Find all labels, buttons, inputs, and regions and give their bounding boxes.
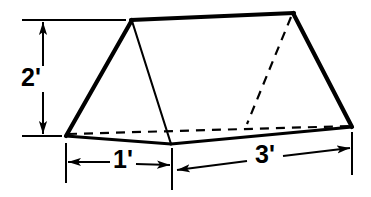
- prism-faces: [66, 13, 352, 144]
- prism-diagram-container: 2' 1' 3': [0, 0, 371, 197]
- dim-arrow-length-right: [283, 148, 350, 156]
- dimension-label-base: 1': [113, 145, 133, 173]
- dim-arrow-base-right: [136, 164, 170, 165]
- dim-arrow-length-left: [177, 161, 247, 170]
- dimension-label-length: 3': [255, 140, 275, 168]
- dimension-label-height: 2': [21, 63, 41, 91]
- dimension-base-1ft: 1': [66, 143, 172, 190]
- prism-diagram-svg: 2' 1' 3': [0, 0, 371, 197]
